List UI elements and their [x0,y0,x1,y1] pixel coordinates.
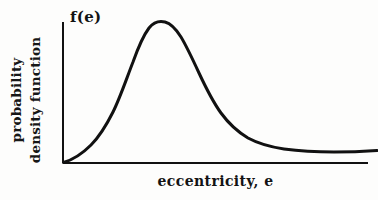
y-axis-symbol-label: f(e) [70,10,101,25]
pdf-curve [64,22,378,163]
figure-container: probability density function f(e) eccent… [0,0,378,200]
plot-area [0,0,378,200]
x-axis-title: eccentricity, e [63,174,368,188]
